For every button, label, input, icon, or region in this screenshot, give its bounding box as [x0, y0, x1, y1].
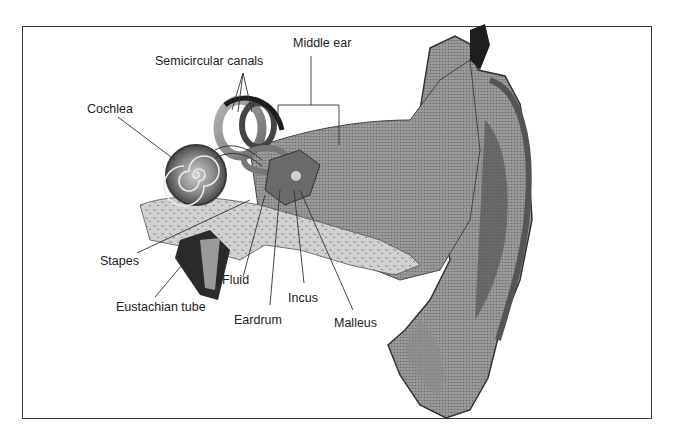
label-incus: Incus — [288, 292, 318, 305]
label-cochlea: Cochlea — [87, 103, 133, 116]
label-stapes: Stapes — [100, 255, 139, 268]
label-eustachian-tube: Eustachian tube — [116, 301, 206, 314]
label-middle-ear: Middle ear — [293, 37, 351, 50]
label-fluid: Fluid — [222, 274, 249, 287]
ear-illustration — [0, 0, 674, 443]
label-malleus: Malleus — [334, 317, 377, 330]
label-eardrum: Eardrum — [234, 314, 282, 327]
label-semicircular-canals: Semicircular canals — [155, 55, 263, 68]
